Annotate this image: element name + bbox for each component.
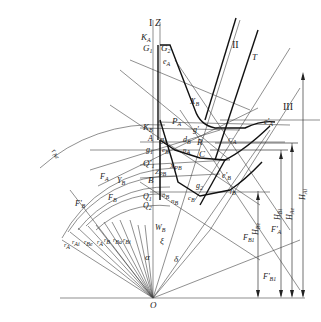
- label-nb: nB: [171, 197, 179, 206]
- label-na: nA: [183, 146, 191, 155]
- label-q2: Q2: [143, 201, 152, 211]
- label-axis-z: Z: [155, 17, 161, 28]
- label-r-ba: rBa: [113, 237, 122, 245]
- arrowheads: [256, 72, 305, 298]
- blade-projection-diagram: I Z II T III KA G1 G2 eA XB PA KB A g2 d…: [0, 0, 321, 322]
- label-axis-i: I: [149, 17, 152, 28]
- label-ra: rA: [64, 242, 70, 250]
- labels: I Z II T III KA G1 G2 eA XB PA KB A g2 d…: [49, 17, 308, 310]
- label-rb: rB: [104, 237, 110, 245]
- label-delta: δ: [174, 254, 179, 264]
- label-ka: KA: [140, 32, 151, 43]
- label-b: B: [148, 175, 154, 185]
- label-g1: g1: [146, 145, 153, 155]
- label-g1-top: G1: [143, 43, 153, 54]
- label-r-be: rBe: [84, 239, 93, 247]
- construction-lines: [40, 20, 320, 298]
- label-r-ai: rAi: [72, 239, 80, 247]
- label-wb: WB: [155, 223, 166, 233]
- label-h-ai: HAi: [298, 189, 308, 201]
- label-fa: FA: [99, 172, 109, 182]
- label-ob: oB: [162, 191, 170, 200]
- label-g2: g2: [160, 135, 167, 145]
- label-ca: CA: [228, 136, 237, 145]
- diagram-canvas: I Z II T III KA G1 G2 eA XB PA KB A g2 d…: [0, 0, 321, 322]
- label-yb: YB: [117, 176, 125, 186]
- label-a: A: [147, 134, 153, 143]
- label-xpb: XPB: [169, 162, 182, 171]
- label-r-ae: rAe: [49, 146, 63, 160]
- label-e-prime-b: e'B: [222, 171, 231, 181]
- label-c: C: [199, 149, 206, 159]
- label-h-bi: HBi: [273, 209, 283, 221]
- label-xb: XB: [189, 96, 200, 107]
- label-r-bi: rBi: [123, 237, 131, 245]
- label-pa: PA: [171, 116, 182, 127]
- label-f-prime-b1: F'B1: [262, 272, 276, 282]
- label-db: dB: [183, 135, 191, 145]
- label-xi: ξ: [160, 236, 164, 246]
- label-origin-o: O: [150, 300, 157, 310]
- label-h-ae: HAe: [285, 208, 295, 221]
- label-line-ii: II: [232, 39, 239, 50]
- label-ea: eA: [163, 57, 171, 67]
- label-cb: cB: [188, 194, 195, 203]
- label-e-prime-a: e'A: [264, 117, 273, 127]
- label-f-prime-a: F'A: [270, 225, 282, 235]
- label-alpha: α: [145, 252, 150, 262]
- label-r: R: [196, 137, 203, 147]
- label-zpb: ZPB: [155, 168, 167, 177]
- label-fb-left: FB: [107, 193, 117, 203]
- blade-profile: [158, 18, 275, 205]
- label-kb: KB: [142, 122, 153, 133]
- label-f-prime-b: F'B: [74, 199, 86, 209]
- label-g-prime: g': [193, 125, 199, 134]
- label-g2-lower: g2: [196, 181, 203, 191]
- label-line-iii: III: [283, 101, 293, 112]
- label-h-be: HBe: [251, 223, 261, 236]
- label-line-t: T: [252, 52, 258, 62]
- label-r-a2: rA: [97, 239, 103, 247]
